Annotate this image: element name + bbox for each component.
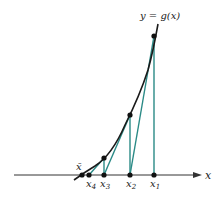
label-x2: x2 <box>126 178 137 191</box>
x-axis-label: x <box>205 169 212 182</box>
label-x3: x3 <box>100 178 111 191</box>
x-axis-arrow-icon <box>193 172 202 178</box>
label-x-bar: x̄ <box>76 161 82 172</box>
fixed-point-diagram: x y = g(x) x̄ x4 x3 x2 x1 <box>0 0 218 202</box>
iteration-path <box>89 36 154 175</box>
label-x4: x4 <box>86 178 96 191</box>
label-x1: x1 <box>150 178 160 191</box>
curve-label: y = g(x) <box>139 10 180 21</box>
diagram: x y = g(x) x̄ x4 x3 x2 x1 <box>0 0 218 202</box>
curve-g <box>74 24 158 180</box>
iteration-points <box>79 33 156 177</box>
